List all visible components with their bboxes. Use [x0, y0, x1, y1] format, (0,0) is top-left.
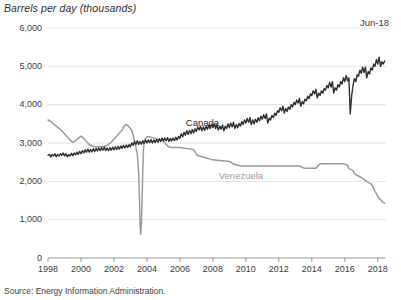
series-line-canada — [48, 57, 385, 157]
y-tick-label: 4,000 — [2, 100, 42, 109]
source-note: Source: Energy Information Administratio… — [4, 286, 166, 296]
chart-root: Barrels per day (thousands) Jun-18 01,00… — [0, 0, 401, 300]
y-tick-label: 5,000 — [2, 62, 42, 71]
y-tick-label: 0 — [2, 254, 42, 263]
y-tick-label: 6,000 — [2, 24, 42, 33]
y-tick-label: 1,000 — [2, 215, 42, 224]
y-tick-label: 3,000 — [2, 139, 42, 148]
y-tick-label: 2,000 — [2, 177, 42, 186]
series-label-venezuela: Venezuela — [219, 170, 263, 181]
plot-area — [0, 0, 401, 300]
series-label-canada: Canada — [186, 117, 219, 128]
series-line-venezuela — [48, 120, 385, 234]
x-tick-label: 2018 — [358, 265, 398, 274]
axis-tick-marks — [48, 258, 378, 262]
